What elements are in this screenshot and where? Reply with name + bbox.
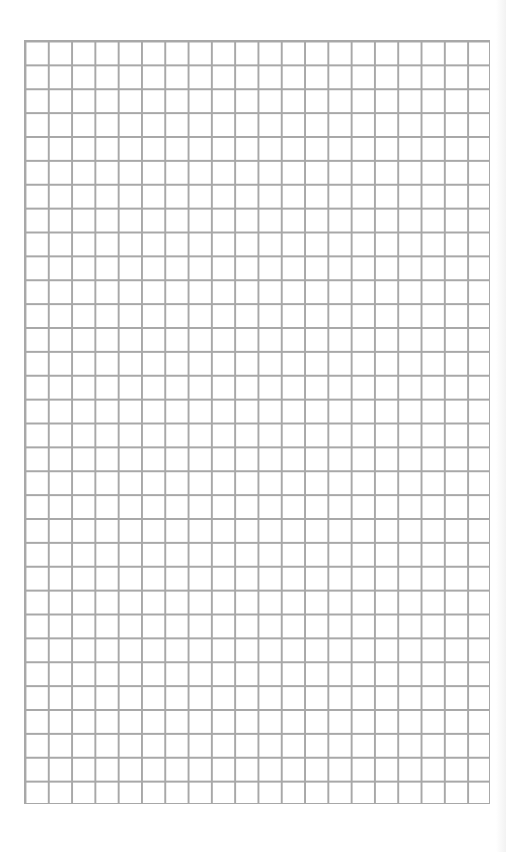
graph-paper-grid: [24, 40, 490, 804]
page-edge-shadow: [496, 0, 506, 852]
